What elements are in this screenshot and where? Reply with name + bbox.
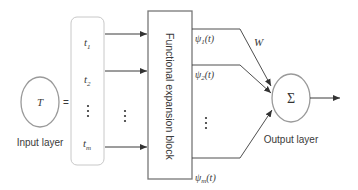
input-vector-item: tm [83,137,91,152]
expansion-label: ψ1(t) [195,33,215,46]
input-layer-label: Input layer [17,137,64,148]
expansion-ellipsis [205,117,207,129]
input-node: T [21,77,59,127]
svg-text:t2: t2 [84,73,91,88]
svg-text:t1: t1 [84,36,91,51]
expansion-label: ψm(t) [195,172,216,185]
flnn-diagram: T = Input layer t1 t2 tm Functional expa… [0,0,358,190]
weights-label: W [254,36,264,48]
equals-sign: = [63,97,69,108]
input-node-label: T [37,96,44,108]
svg-text:tm: tm [83,137,91,152]
arrow-ellipsis [124,110,126,122]
svg-text:ψ2(t): ψ2(t) [195,69,215,82]
output-layer-label: Output layer [264,134,319,145]
output-node: Σ [272,74,310,122]
expansion-link [192,110,272,158]
input-vector-item: t2 [84,73,91,88]
svg-text:ψm(t): ψm(t) [195,172,216,185]
sum-icon: Σ [287,91,295,106]
input-vector-item: t1 [84,36,91,51]
svg-text:ψ1(t): ψ1(t) [195,33,215,46]
functional-expansion-label: Functional expansion block [164,33,176,160]
input-vector-bracket [71,17,104,165]
input-vector-ellipsis [87,105,89,117]
expansion-label: ψ2(t) [195,69,215,82]
